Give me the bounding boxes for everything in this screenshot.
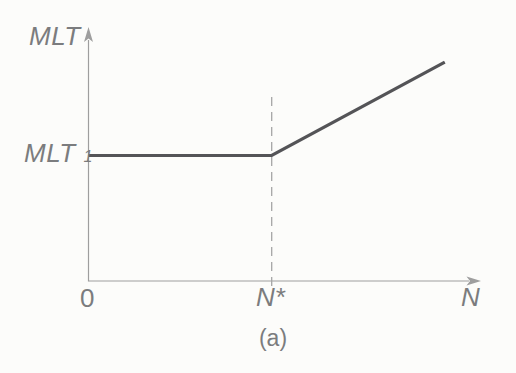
figure-panel: MLT MLT1 0 N* N (a) (0, 0, 516, 373)
x-axis-title: N (461, 284, 480, 310)
x-tick-label-nstar: N* (256, 284, 285, 310)
y-tick-label-main: MLT (24, 138, 76, 168)
x-tick-label-zero: 0 (80, 285, 94, 311)
y-tick-label-mlt1: MLT1 (24, 140, 93, 166)
plot-canvas (0, 0, 516, 373)
y-axis-arrowhead-icon (84, 27, 93, 42)
figure-caption: (a) (250, 327, 296, 350)
y-tick-label-subscript: 1 (84, 148, 93, 165)
y-axis-title: MLT (29, 23, 81, 49)
mlt-curve (89, 62, 445, 155)
